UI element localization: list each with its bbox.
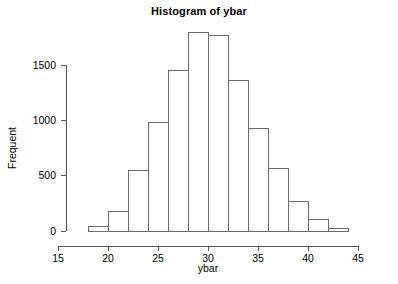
plot-canvas: 15202530354045 050010001500 ybar Frequen… [0,0,398,284]
histogram-bar [268,168,288,231]
y-tick-label: 1500 [33,59,57,71]
histogram-bar [148,123,168,231]
histogram-bar [168,71,188,231]
histogram-bar [288,202,308,231]
x-tick-label: 15 [52,252,64,264]
x-tick-label: 35 [252,252,264,264]
x-tick-label: 25 [152,252,164,264]
histogram-bar [128,171,148,231]
histogram-bar [208,35,228,231]
histogram-bar [88,227,108,231]
y-tick-label: 500 [38,169,56,181]
histogram-bar [248,128,268,231]
histogram-bar [228,80,248,231]
histogram-bar [188,33,208,231]
x-tick-label: 45 [352,252,364,264]
histogram-bar [108,212,128,231]
x-tick-label: 40 [302,252,314,264]
x-tick-label: 20 [102,252,114,264]
histogram-plot: Histogram of ybar 15202530354045 0500100… [0,0,398,284]
y-tick-label: 0 [50,225,56,237]
y-axis: 050010001500 [33,59,66,237]
y-tick-group: 050010001500 [33,59,66,237]
y-tick-label: 1000 [33,114,57,126]
histogram-bar [328,229,348,231]
x-axis-title: ybar [198,262,219,274]
y-axis-title: Frequent [6,127,18,169]
histogram-bar [308,219,328,231]
bars-group [88,33,348,231]
